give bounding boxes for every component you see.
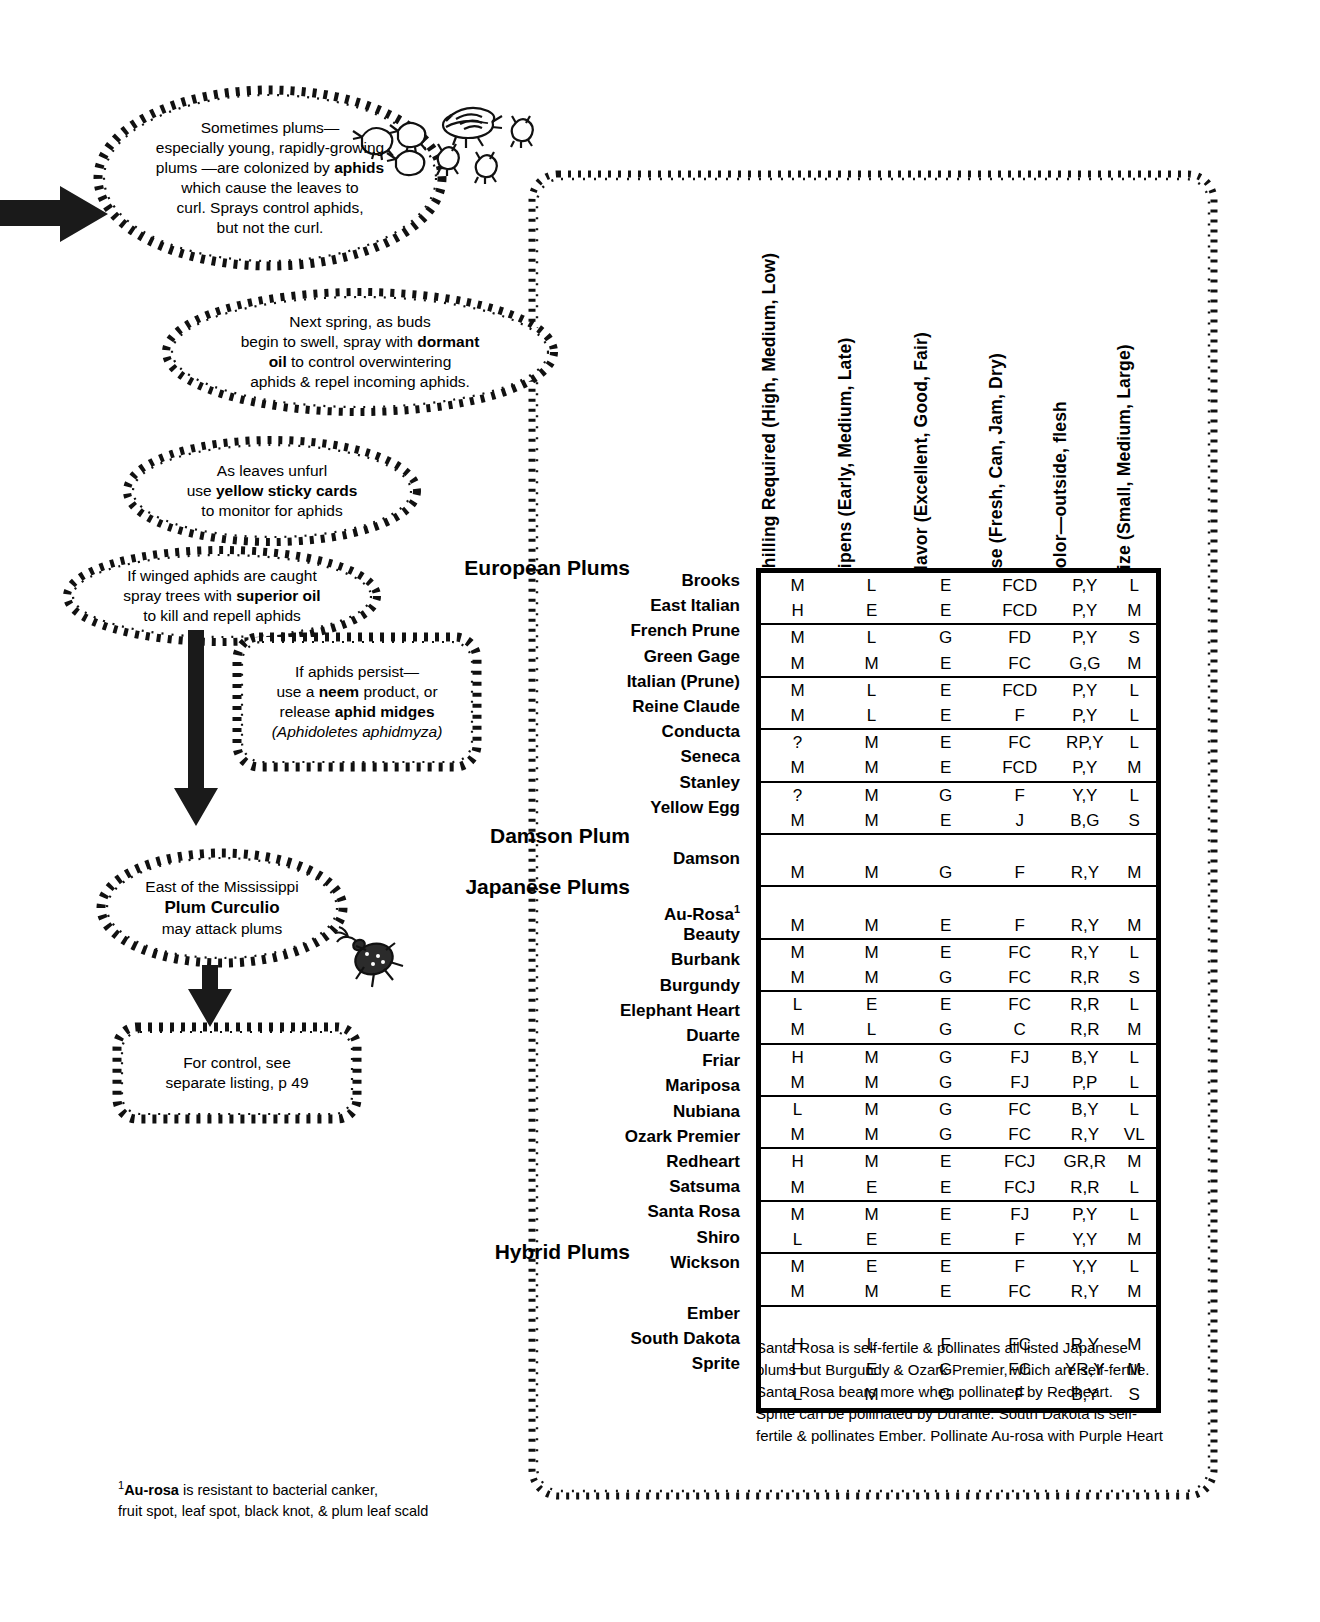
pollination-note: Santa Rosa is self-fertile & pollinates … [756, 1337, 1216, 1447]
table-row: MMEFJP,YL [761, 1201, 1156, 1227]
cell-use: FCJ [982, 1175, 1057, 1201]
cell-color: Y,Y [1057, 782, 1112, 808]
cell-size: L [1113, 1070, 1156, 1096]
cultivar-name: Nubiana [430, 1099, 750, 1124]
group-spacer-label [430, 1275, 750, 1301]
cell-size: L [1113, 782, 1156, 808]
cell-use: FCD [982, 573, 1057, 598]
flow-arrow-down-1 [172, 630, 220, 830]
table-row: MEEFY,YL [761, 1253, 1156, 1279]
group-spacer-row [761, 834, 1156, 860]
cell-size: L [1113, 573, 1156, 598]
cell-ripens: E [834, 991, 909, 1017]
cultivar-name: Green Gage [430, 644, 750, 669]
cell-color: R,Y [1057, 1122, 1112, 1148]
cell-flavor: E [909, 1201, 982, 1227]
cell-use: J [982, 808, 1057, 834]
callout-plum-curculio: East of the Mississippi Plum Curculio ma… [96, 848, 348, 968]
cell-ripens: L [834, 624, 909, 650]
cell-use: F [982, 1253, 1057, 1279]
cell-color: RP,Y [1057, 729, 1112, 755]
table-row: MEEFCJR,RL [761, 1175, 1156, 1201]
cell-use: FC [982, 651, 1057, 677]
cell-flavor: E [909, 939, 982, 965]
cell-ripens: M [834, 1201, 909, 1227]
cell-ripens: M [834, 1044, 909, 1070]
cell-color: R,R [1057, 1017, 1112, 1043]
cell-size: L [1113, 1096, 1156, 1122]
cell-ripens: M [834, 913, 909, 939]
cell-size: L [1113, 1044, 1156, 1070]
table-row: MMEFCR,YM [761, 1279, 1156, 1305]
cell-size: L [1113, 677, 1156, 703]
cell-use: FJ [982, 1044, 1057, 1070]
cell-ripens: E [834, 1227, 909, 1253]
column-header-color: Color—outside, flesh [1050, 401, 1071, 581]
cultivar-name: Burbank [430, 947, 750, 972]
cell-chilling: M [761, 1279, 834, 1305]
cell-color: P,Y [1057, 1201, 1112, 1227]
cell-flavor: E [909, 729, 982, 755]
cell-chilling: M [761, 624, 834, 650]
cell-ripens: L [834, 677, 909, 703]
cell-color: Y,Y [1057, 1253, 1112, 1279]
cultivar-name: Friar [430, 1048, 750, 1073]
cell-use: FC [982, 729, 1057, 755]
cell-flavor: G [909, 965, 982, 991]
cell-flavor: G [909, 860, 982, 886]
cell-ripens: M [834, 729, 909, 755]
cell-flavor: G [909, 1044, 982, 1070]
callout-text: For control, see separate listing, p 49 [157, 1053, 316, 1093]
cell-flavor: E [909, 1253, 982, 1279]
cell-chilling: L [761, 1227, 834, 1253]
cultivar-name: Italian (Prune) [430, 669, 750, 694]
cultivar-name: Duarte [430, 1023, 750, 1048]
cell-ripens: L [834, 703, 909, 729]
cultivar-name: Ozark Premier [430, 1124, 750, 1149]
cell-use: FCD [982, 755, 1057, 781]
callout-text: As leaves unfurl use yellow sticky cards… [179, 461, 366, 521]
cell-ripens: M [834, 808, 909, 834]
cell-size: M [1113, 1148, 1156, 1174]
cell-size: M [1113, 1279, 1156, 1305]
cell-size: M [1113, 598, 1156, 624]
table-row: ?MEFCRP,YL [761, 729, 1156, 755]
cell-ripens: M [834, 860, 909, 886]
cultivar-name: Shiro [430, 1225, 750, 1250]
au-rosa-footnote: 1Au-rosa is resistant to bacterial canke… [118, 1478, 538, 1522]
group-spacer-row [761, 1306, 1156, 1332]
cultivar-name: Redheart [430, 1149, 750, 1174]
cell-size: M [1113, 1017, 1156, 1043]
cultivar-name: Beauty [430, 922, 750, 947]
table-row: HMEFCJGR,RM [761, 1148, 1156, 1174]
table-row: MMEFCG,GM [761, 651, 1156, 677]
cell-color: P,Y [1057, 598, 1112, 624]
cell-flavor: E [909, 808, 982, 834]
cell-chilling: L [761, 991, 834, 1017]
cell-flavor: E [909, 1175, 982, 1201]
group-spacer-label [430, 871, 750, 897]
cell-flavor: E [909, 703, 982, 729]
cell-color: B,Y [1057, 1096, 1112, 1122]
cultivar-name: Wickson [430, 1250, 750, 1275]
cell-flavor: G [909, 1070, 982, 1096]
cell-use: FC [982, 991, 1057, 1017]
plum-ipm-page: Sometimes plums— especially young, rapid… [0, 0, 1320, 1622]
cultivar-name: Burgundy [430, 973, 750, 998]
callout-text: East of the Mississippi Plum Curculio ma… [137, 877, 306, 939]
cultivar-name: East Italian [430, 593, 750, 618]
table-row: MMEFCR,YL [761, 939, 1156, 965]
cell-use: FC [982, 939, 1057, 965]
column-header-use: Use (Fresh, Can, Jam, Dry) [986, 353, 1007, 581]
callout-see-separate-listing: For control, see separate listing, p 49 [112, 1022, 362, 1124]
callout-text: Sometimes plums— especially young, rapid… [148, 118, 392, 239]
cell-color: R,Y [1057, 860, 1112, 886]
cell-chilling: M [761, 573, 834, 598]
cell-ripens: M [834, 651, 909, 677]
cell-use: F [982, 860, 1057, 886]
cultivar-name: Sprite [430, 1351, 750, 1376]
cell-use: F [982, 913, 1057, 939]
cell-color: B,Y [1057, 1044, 1112, 1070]
footnote-bold: Au-rosa [124, 1482, 179, 1498]
cultivar-name: South Dakota [430, 1326, 750, 1351]
